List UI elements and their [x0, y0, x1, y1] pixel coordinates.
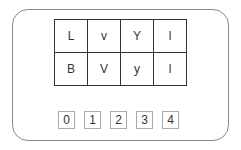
- grid-cell: B: [55, 53, 88, 86]
- option-3-button[interactable]: 3: [136, 111, 153, 129]
- option-0-button[interactable]: 0: [58, 111, 75, 129]
- option-1-button[interactable]: 1: [84, 111, 101, 129]
- grid-cell: v: [88, 20, 121, 53]
- answer-options: 0 1 2 3 4: [58, 111, 179, 129]
- grid-cell: V: [88, 53, 121, 86]
- letter-grid: L v Y l B V y l: [54, 19, 187, 86]
- grid-cell: l: [154, 53, 187, 86]
- option-2-button[interactable]: 2: [110, 111, 127, 129]
- grid-cell: L: [55, 20, 88, 53]
- grid-cell: l: [154, 20, 187, 53]
- grid-cell: y: [121, 53, 154, 86]
- grid-cell: Y: [121, 20, 154, 53]
- option-4-button[interactable]: 4: [162, 111, 179, 129]
